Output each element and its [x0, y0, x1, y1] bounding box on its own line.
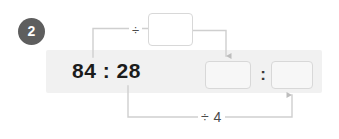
source-ratio-expression: 84 : 28 [72, 59, 141, 83]
exercise-canvas: 2 84 : 28 ÷ ÷ 4 : [0, 0, 339, 139]
result-ratio-colon: : [256, 64, 270, 86]
result-right-input-box[interactable] [271, 61, 313, 89]
divisor-input-box[interactable] [148, 13, 193, 46]
exercise-number-badge: 2 [18, 18, 45, 45]
result-left-input-box[interactable] [205, 61, 251, 89]
operation-label-bottom: ÷ 4 [198, 109, 225, 125]
operation-label-top: ÷ [129, 23, 142, 39]
